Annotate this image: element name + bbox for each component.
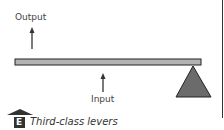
input-arrow-head — [101, 73, 106, 79]
lever-diagram — [0, 0, 224, 130]
caption: Third-class levers — [30, 116, 118, 127]
house-roof-icon — [7, 109, 33, 115]
lever-bar — [15, 59, 201, 65]
input-label: Input — [91, 94, 114, 104]
output-arrow-head — [30, 27, 35, 33]
badge-letter: E — [16, 117, 22, 127]
fulcrum-triangle — [176, 66, 211, 97]
